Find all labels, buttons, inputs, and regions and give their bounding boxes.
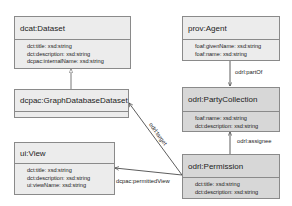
- part-of-label: odrl:partOf: [235, 69, 262, 75]
- class-ui-view[interactable]: ui:View dct:title: xsd:string dct:descri…: [14, 142, 115, 195]
- class-permission[interactable]: odrl:Permission dct:title: xsd:string dc…: [182, 154, 280, 199]
- class-party-collection[interactable]: odrl:PartyCollection foaf:name: xsd:stri…: [182, 87, 280, 132]
- class-attributes: [15, 112, 128, 115]
- class-name: prov:Agent: [183, 17, 279, 40]
- assignee-label: odrl:assignee: [237, 138, 271, 144]
- attribute: dct:description: xsd:string: [27, 51, 130, 59]
- attribute: dcpac:internalName: xsd:string: [27, 58, 130, 66]
- attribute: dct:description: xsd:string: [195, 123, 279, 131]
- class-dcat-dataset[interactable]: dcat:Dataset dct:title: xsd:string dct:d…: [14, 16, 131, 69]
- attribute: ui:viewName: xsd:string: [27, 182, 114, 190]
- class-prov-agent[interactable]: prov:Agent foaf:givenName: xsd:string fo…: [182, 16, 280, 61]
- attribute: dct:title: xsd:string: [27, 167, 114, 175]
- class-attributes: dct:title: xsd:string dct:description: x…: [15, 40, 130, 66]
- class-name: ui:View: [15, 143, 114, 164]
- class-name: odrl:PartyCollection: [183, 88, 279, 112]
- target-edge: [129, 103, 182, 175]
- class-graph-database-dataset[interactable]: dcpac:GraphDatabaseDataset: [14, 89, 129, 118]
- attribute: foaf:name: xsd:string: [195, 115, 279, 123]
- permitted-view-edge: [115, 168, 182, 175]
- class-name: odrl:Permission: [183, 155, 279, 178]
- class-name: dcat:Dataset: [15, 17, 130, 40]
- class-attributes: foaf:givenName: xsd:string foaf:name: xs…: [183, 40, 279, 58]
- class-attributes: foaf:name: xsd:string dct:description: x…: [183, 112, 279, 130]
- attribute: dct:description: xsd:string: [27, 175, 114, 183]
- attribute: dct:description: xsd:string: [195, 189, 279, 197]
- attribute: dct:title: xsd:string: [195, 181, 279, 189]
- attribute: dct:title: xsd:string: [27, 43, 130, 51]
- class-name: dcpac:GraphDatabaseDataset: [15, 90, 128, 112]
- attribute: foaf:name: xsd:string: [195, 51, 279, 59]
- class-attributes: dct:title: xsd:string dct:description: x…: [183, 178, 279, 196]
- attribute: foaf:givenName: xsd:string: [195, 43, 279, 51]
- class-attributes: dct:title: xsd:string dct:description: x…: [15, 164, 114, 190]
- permitted-view-label: dcpac:permittedView: [116, 178, 170, 184]
